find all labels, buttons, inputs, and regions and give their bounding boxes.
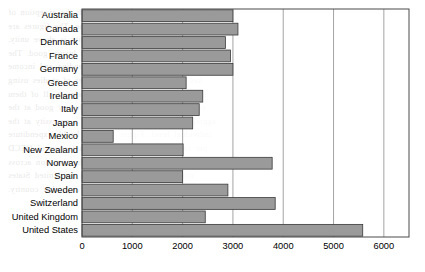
bar-new-zealand [82, 144, 183, 156]
category-label-france: France [49, 51, 78, 61]
category-label-denmark: Denmark [40, 37, 78, 47]
x-tick-label-0: 0 [79, 241, 84, 251]
category-label-spain: Spain [54, 171, 78, 181]
category-label-united-states: United States [22, 225, 78, 235]
bar-canada [82, 23, 238, 35]
bar-united-kingdom [82, 211, 205, 223]
bar-denmark [82, 37, 225, 49]
bar-sweden [82, 184, 228, 196]
category-label-switzerland: Switzerland [30, 198, 78, 208]
category-label-sweden: Sweden [44, 185, 78, 195]
category-label-japan: Japan [53, 118, 78, 128]
bar-france [82, 50, 230, 62]
bar-switzerland [82, 198, 275, 210]
category-label-norway: Norway [46, 158, 78, 168]
bar-mexico [82, 131, 113, 143]
x-tick-label-2000: 2000 [172, 241, 193, 251]
bar-norway [82, 157, 272, 169]
x-tick-label-1000: 1000 [122, 241, 143, 251]
x-axis-tick-labels: 0100020003000400050006000 [79, 241, 394, 251]
bar-australia [82, 10, 233, 22]
bar-spain [82, 171, 183, 183]
bar-japan [82, 117, 193, 129]
category-label-australia: Australia [42, 10, 79, 20]
bar-chart: AustraliaCanadaDenmarkFranceGermanyGreec… [0, 0, 425, 272]
bar-germany [82, 63, 233, 75]
category-label-new-zealand: New Zealand [23, 145, 78, 155]
category-label-germany: Germany [40, 64, 79, 74]
category-label-mexico: Mexico [49, 131, 78, 141]
category-label-italy: Italy [61, 104, 78, 114]
x-tick-label-5000: 5000 [323, 241, 344, 251]
bar-ireland [82, 90, 203, 102]
category-label-united-kingdom: United Kingdom [12, 212, 78, 222]
bar-italy [82, 104, 199, 116]
category-axis-labels: AustraliaCanadaDenmarkFranceGermanyGreec… [12, 10, 79, 235]
category-label-ireland: Ireland [50, 91, 78, 101]
bar-united-states [82, 224, 363, 236]
category-label-canada: Canada [45, 24, 78, 34]
bar-greece [82, 77, 186, 89]
x-tick-label-3000: 3000 [223, 241, 244, 251]
category-label-greece: Greece [48, 78, 79, 88]
x-tick-label-4000: 4000 [273, 241, 294, 251]
x-tick-label-6000: 6000 [374, 241, 395, 251]
